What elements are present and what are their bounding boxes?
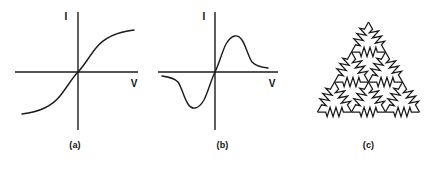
- panel-a-caption: (a): [0, 140, 150, 150]
- resistor-13: [369, 82, 386, 112]
- resistor-14: [386, 82, 403, 112]
- figure-row: I V (a) I V (b) (c): [0, 0, 442, 170]
- panel-c: (c): [295, 0, 442, 170]
- resistor-15: [403, 82, 420, 112]
- panel-a: I V (a): [0, 0, 150, 170]
- panel-b-caption: (b): [150, 140, 295, 150]
- resistor-4: [335, 52, 352, 82]
- panel-b-plot: I V: [150, 0, 295, 140]
- resistor-9: [369, 77, 403, 86]
- resistor-2: [369, 22, 386, 52]
- panel-a-plot: I V: [0, 0, 150, 140]
- resistor-11: [335, 82, 352, 112]
- panel-b: I V (b): [150, 0, 295, 170]
- resistor-1: [352, 22, 369, 52]
- resistor-7: [386, 52, 403, 82]
- resistor-17: [352, 107, 386, 116]
- resistor-5: [352, 52, 369, 82]
- x-axis-label: V: [131, 78, 138, 89]
- panel-c-network: [295, 0, 442, 140]
- resistor-18: [386, 107, 420, 116]
- resistor-12: [352, 82, 369, 112]
- resistor-network-group: [318, 22, 420, 117]
- resistor-6: [369, 52, 386, 82]
- resistor-10: [318, 82, 335, 112]
- resistor-8: [335, 77, 369, 86]
- y-axis-label: I: [65, 11, 68, 22]
- y-axis-label: I: [203, 11, 206, 22]
- panel-c-caption: (c): [295, 140, 442, 150]
- resistor-16: [318, 107, 352, 116]
- x-axis-label: V: [269, 78, 276, 89]
- resistor-3: [352, 47, 386, 56]
